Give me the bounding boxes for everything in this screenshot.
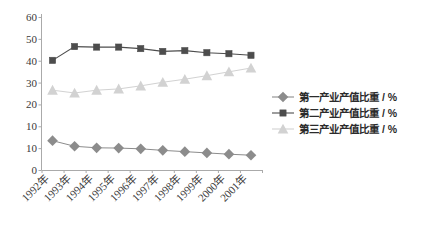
y-axis-tick-label: 0 xyxy=(32,164,38,176)
legend-item[interactable]: 第三产业产值比重 / % xyxy=(272,123,398,135)
diamond-marker-icon xyxy=(202,148,213,159)
diamond-marker-icon xyxy=(47,135,58,146)
data-series xyxy=(47,135,256,160)
y-axis-tick-label: 50 xyxy=(26,33,38,45)
square-marker-icon xyxy=(71,43,77,49)
diamond-marker-icon xyxy=(91,142,102,153)
square-marker-icon xyxy=(94,44,100,50)
y-axis-tick-label: 60 xyxy=(26,11,38,23)
square-marker-icon xyxy=(138,46,144,52)
y-axis-tick-label: 20 xyxy=(26,98,38,110)
square-marker-icon xyxy=(49,57,55,63)
diamond-marker-icon xyxy=(69,141,80,152)
diamond-marker-icon xyxy=(278,92,289,103)
square-marker-icon xyxy=(248,52,254,58)
y-axis-tick-label: 30 xyxy=(26,77,38,89)
diamond-marker-icon xyxy=(135,144,146,155)
legend-item[interactable]: 第一产业产值比重 / % xyxy=(272,91,398,103)
y-axis-tick-label: 10 xyxy=(26,120,38,132)
x-axis-tick-labels: 1992年1993年1994年1995年1996年1997年1998年1999年… xyxy=(18,171,249,204)
chart-legend: 第一产业产值比重 / %第二产业产值比重 / %第三产业产值比重 / % xyxy=(272,91,398,135)
square-marker-icon xyxy=(226,51,232,57)
legend-item[interactable]: 第二产业产值比重 / % xyxy=(272,107,398,119)
series-line xyxy=(53,47,251,61)
legend-item-label: 第三产业产值比重 / % xyxy=(299,123,398,135)
series-line xyxy=(53,141,251,156)
y-axis-tick-label: 10 xyxy=(26,142,38,154)
square-marker-icon xyxy=(160,48,166,54)
y-axis-tick-labels: 605040302010100 xyxy=(26,11,38,176)
chart-container: 605040302010100 1992年1993年1994年1995年1996… xyxy=(0,0,440,228)
square-marker-icon xyxy=(204,50,210,56)
diamond-marker-icon xyxy=(157,145,168,156)
line-chart: 605040302010100 1992年1993年1994年1995年1996… xyxy=(0,0,440,228)
data-series xyxy=(47,63,256,98)
data-series xyxy=(49,43,254,63)
legend-item-label: 第一产业产值比重 / % xyxy=(299,91,398,103)
diamond-marker-icon xyxy=(224,149,235,160)
y-axis-tick-label: 40 xyxy=(26,55,38,67)
diamond-marker-icon xyxy=(179,146,190,157)
legend-item-label: 第二产业产值比重 / % xyxy=(299,107,398,119)
series-line xyxy=(53,68,251,93)
series-layer xyxy=(47,43,256,160)
square-marker-icon xyxy=(116,44,122,50)
diamond-marker-icon xyxy=(246,150,257,161)
square-marker-icon xyxy=(280,110,286,116)
triangle-marker-icon xyxy=(47,85,58,95)
diamond-marker-icon xyxy=(113,143,124,154)
square-marker-icon xyxy=(182,48,188,54)
triangle-marker-icon xyxy=(246,63,257,73)
